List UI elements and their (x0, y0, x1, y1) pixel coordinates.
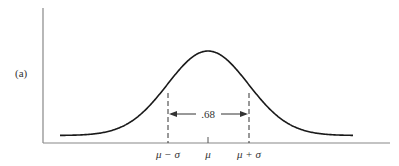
tick-label-mu-minus-sigma: μ − σ (155, 148, 180, 160)
normal-distribution-figure: .68 (a) μ − σ μ μ + σ (0, 0, 399, 166)
interval-value-label: .68 (201, 108, 215, 120)
normal-curve (60, 51, 353, 135)
arrowhead-right-icon (240, 111, 248, 117)
panel-label: (a) (15, 67, 28, 80)
tick-label-mu-plus-sigma: μ + σ (236, 148, 261, 160)
tick-label-mu: μ (204, 148, 211, 160)
arrowhead-left-icon (169, 111, 177, 117)
